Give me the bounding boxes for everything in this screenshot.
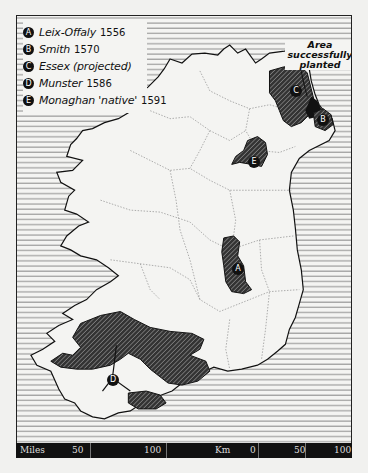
legend-badge-d: D (23, 78, 34, 89)
legend-label: Leix-Offaly (39, 26, 96, 39)
legend-item-e: E Monaghan 'native' 1591 (23, 92, 147, 109)
annotation-line: planted (285, 60, 352, 70)
badge-e: E (248, 156, 260, 168)
legend-year: 1591 (141, 95, 166, 106)
legend-item-c: C Essex (projected) (23, 58, 147, 75)
legend-label: Munster (39, 77, 82, 90)
legend-item-b: B Smith 1570 (23, 41, 147, 58)
legend-badge-a: A (23, 27, 34, 38)
map-legend: A Leix-Offaly 1556 B Smith 1570 C Essex … (23, 22, 147, 113)
scale-bar-miles: Miles 50 100 (16, 443, 167, 458)
scale-bar-spacer (167, 443, 210, 458)
legend-badge-c: C (23, 61, 34, 72)
legend-label: Essex (projected) (39, 60, 132, 73)
legend-item-d: D Munster 1586 (23, 75, 147, 92)
legend-label: Smith (39, 43, 70, 56)
scale-bar-km: Km 0 50 100 (210, 443, 352, 458)
scale-tick-label: 0 (250, 445, 256, 455)
map-frame: A B C D E A Leix-Offaly 1556 B Smith 157… (16, 15, 352, 444)
legend-year: 1586 (86, 78, 111, 89)
legend-year: 1556 (100, 27, 125, 38)
legend-badge-e: E (23, 95, 34, 106)
legend-badge-b: B (23, 44, 34, 55)
scale-tick-label: 100 (144, 445, 161, 455)
badge-b: B (317, 114, 329, 126)
scale-unit-km: Km (215, 445, 230, 455)
scale-tick-label: 100 (334, 445, 351, 455)
successfully-planted-annotation: Area successfully planted (285, 40, 352, 70)
scale-tick-label: 50 (294, 445, 305, 455)
badge-c: C (290, 85, 302, 97)
scale-tick-label: 50 (72, 445, 83, 455)
legend-year: 1570 (74, 44, 99, 55)
scale-unit-miles: Miles (20, 445, 45, 455)
legend-item-a: A Leix-Offaly 1556 (23, 24, 147, 41)
badge-d: D (107, 374, 119, 386)
legend-label: Monaghan 'native' (39, 94, 137, 107)
badge-a: A (232, 263, 244, 275)
